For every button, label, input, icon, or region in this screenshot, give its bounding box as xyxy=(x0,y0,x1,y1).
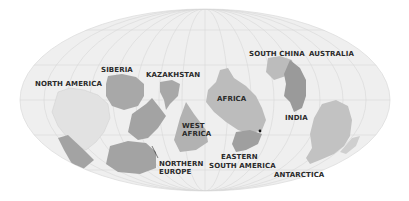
label-northern-europe-line2: EUROPE xyxy=(159,168,191,176)
label-west-africa-line1: WEST xyxy=(182,122,205,130)
label-africa: AFRICA xyxy=(217,95,246,103)
label-north-america: NORTH AMERICA xyxy=(35,80,102,88)
location-marker xyxy=(259,130,262,133)
paleogeographic-world-map xyxy=(0,0,409,201)
label-siberia: SIBERIA xyxy=(101,66,133,74)
label-eastern-south-america-line1: EASTERN xyxy=(221,153,258,161)
label-kazakhstan: KAZAKHSTAN xyxy=(146,71,200,79)
label-eastern-south-america-line2: SOUTH AMERICA xyxy=(209,162,276,170)
label-south-china: SOUTH CHINA xyxy=(249,50,305,58)
label-australia: AUSTRALIA xyxy=(309,50,354,58)
label-northern-europe-line1: NORTHERN xyxy=(159,160,203,168)
label-antarctica: ANTARCTICA xyxy=(274,171,324,179)
landmass-siberia xyxy=(106,74,144,110)
label-india: INDIA xyxy=(285,114,308,122)
label-west-africa-line2: AFRICA xyxy=(182,130,211,138)
